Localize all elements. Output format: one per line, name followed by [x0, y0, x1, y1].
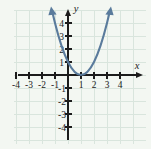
graph-canvas: -4 -3 -2 -1 1 2 3 4 4 3 2 1 -1 -2 -3 -4 … [0, 0, 151, 149]
x-tick-label: -4 [12, 80, 20, 90]
parabola-graph-figure: -4 -3 -2 -1 1 2 3 4 4 3 2 1 -1 -2 -3 -4 … [0, 0, 151, 149]
x-tick-label: 4 [118, 80, 123, 90]
x-axis-label: x [134, 60, 140, 71]
y-tick-label: -1 [58, 84, 66, 94]
x-tick-label: 1 [79, 80, 84, 90]
y-tick-label: 1 [59, 58, 64, 68]
y-axis-label: y [73, 3, 79, 14]
x-tick-label: -2 [38, 80, 46, 90]
y-tick-label: 4 [59, 19, 64, 29]
y-tick-label: -4 [58, 123, 66, 133]
y-tick-label: -3 [58, 110, 66, 120]
y-tick-label: -2 [58, 97, 66, 107]
x-tick-label: 2 [92, 80, 97, 90]
x-tick-label: 3 [105, 80, 110, 90]
x-tick-label: -3 [25, 80, 33, 90]
